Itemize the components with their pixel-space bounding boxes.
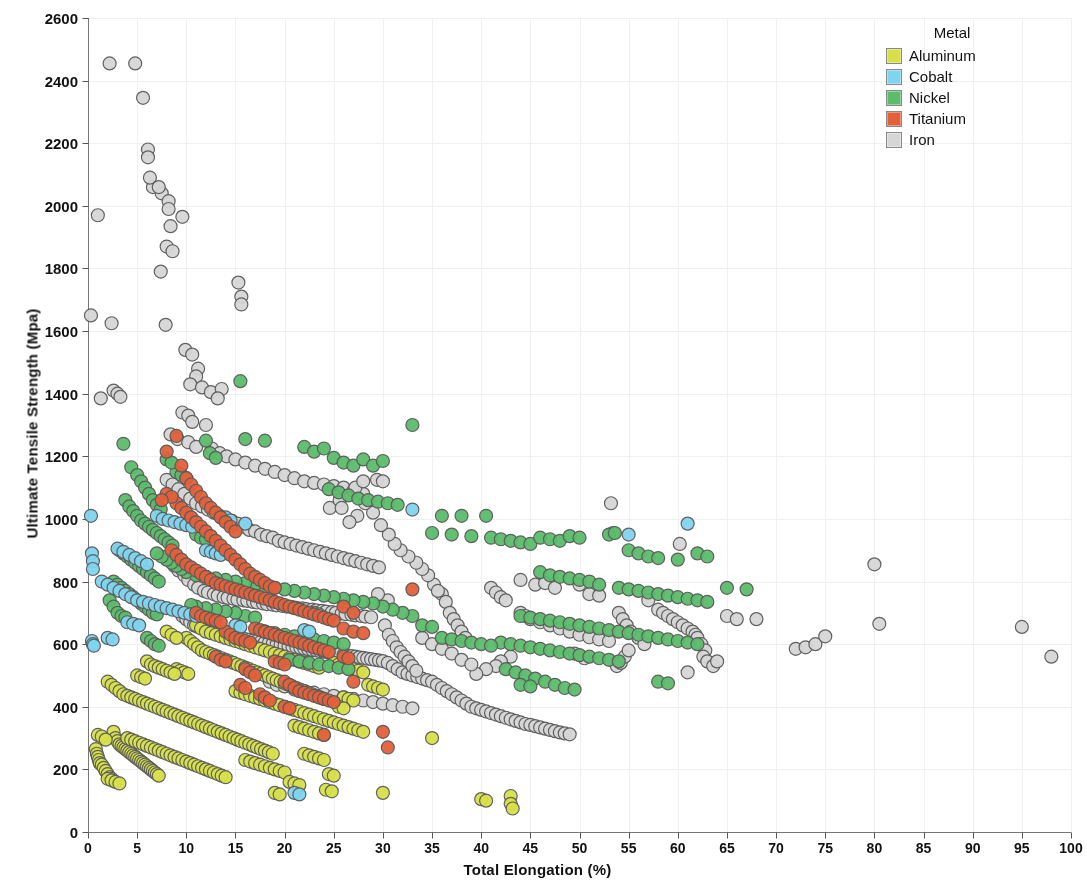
x-tick-label: 55 <box>609 841 649 855</box>
x-tick-label: 85 <box>904 841 944 855</box>
legend-item-label: Iron <box>909 132 935 147</box>
y-tick-label: 400 <box>20 699 78 714</box>
y-tick-label: 1000 <box>20 511 78 526</box>
legend-item-label: Cobalt <box>909 69 952 84</box>
x-tick-label: 60 <box>658 841 698 855</box>
legend-swatch-icon <box>886 90 902 106</box>
x-tick-label: 20 <box>265 841 305 855</box>
x-tick-label: 0 <box>68 841 108 855</box>
y-tick-label: 600 <box>20 637 78 652</box>
legend-swatch-icon <box>886 132 902 148</box>
x-tick-label: 10 <box>166 841 206 855</box>
y-tick-label: 0 <box>20 825 78 840</box>
y-tick-label: 800 <box>20 574 78 589</box>
legend-swatch-icon <box>886 111 902 127</box>
x-tick-label: 95 <box>1002 841 1042 855</box>
legend-item-label: Titanium <box>909 111 966 126</box>
x-tick-label: 35 <box>412 841 452 855</box>
legend-title: Metal <box>892 24 1012 41</box>
legend-swatch-icon <box>886 48 902 64</box>
y-tick-label: 1800 <box>20 261 78 276</box>
y-axis-tick-labels: 0200400600800100012001400160018002000220… <box>0 0 78 883</box>
y-tick-label: 1600 <box>20 324 78 339</box>
legend-entries: AluminumCobaltNickelTitaniumIron <box>886 45 1071 150</box>
y-tick-label: 2000 <box>20 198 78 213</box>
legend-item-nickel[interactable]: Nickel <box>886 87 1071 108</box>
x-tick-label: 15 <box>215 841 255 855</box>
x-tick-label: 90 <box>953 841 993 855</box>
x-tick-label: 80 <box>854 841 894 855</box>
x-tick-label: 50 <box>560 841 600 855</box>
legend-swatch-icon <box>886 69 902 85</box>
legend-item-aluminum[interactable]: Aluminum <box>886 45 1071 66</box>
x-tick-label: 45 <box>510 841 550 855</box>
x-tick-label: 100 <box>1051 841 1087 855</box>
x-axis-tick-labels: 0510152025303540455055606570758085909510… <box>0 841 1075 865</box>
y-tick-label: 200 <box>20 762 78 777</box>
y-tick-label: 2600 <box>20 11 78 26</box>
y-tick-label: 1200 <box>20 449 78 464</box>
legend-item-label: Aluminum <box>909 48 976 63</box>
x-tick-label: 75 <box>805 841 845 855</box>
x-tick-label: 70 <box>756 841 796 855</box>
y-tick-label: 1400 <box>20 386 78 401</box>
legend: Metal AluminumCobaltNickelTitaniumIron <box>886 24 1071 150</box>
x-tick-label: 30 <box>363 841 403 855</box>
y-tick-label: 2400 <box>20 73 78 88</box>
legend-item-titanium[interactable]: Titanium <box>886 108 1071 129</box>
legend-item-iron[interactable]: Iron <box>886 129 1071 150</box>
y-tick-label: 2200 <box>20 136 78 151</box>
legend-item-label: Nickel <box>909 90 950 105</box>
x-tick-label: 40 <box>461 841 501 855</box>
x-tick-label: 25 <box>314 841 354 855</box>
x-tick-label: 65 <box>707 841 747 855</box>
x-tick-label: 5 <box>117 841 157 855</box>
legend-item-cobalt[interactable]: Cobalt <box>886 66 1071 87</box>
